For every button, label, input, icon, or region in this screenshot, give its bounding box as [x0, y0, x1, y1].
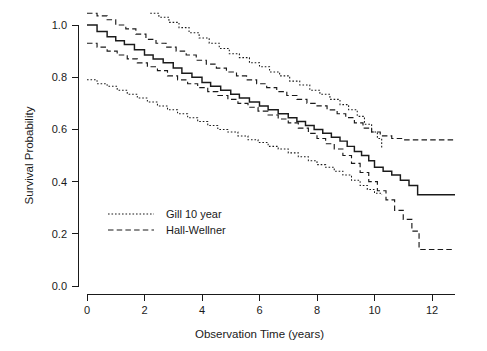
curves-layer — [87, 13, 455, 249]
survival-plot-figure: 0.00.20.40.60.81.0024681012Observation T… — [0, 0, 487, 351]
series-0-solid — [87, 25, 455, 195]
y-tick-label: 0.2 — [52, 228, 67, 240]
x-tick-label: 2 — [141, 304, 147, 316]
series-3-dotted — [150, 13, 381, 147]
legend-label: Gill 10 year — [166, 208, 222, 220]
legend-label: Hall-Wellner — [166, 224, 226, 236]
x-tick-label: 10 — [368, 304, 380, 316]
series-1-dashed — [87, 13, 455, 140]
y-tick-label: 0.6 — [52, 123, 67, 135]
x-tick-label: 6 — [256, 304, 262, 316]
series-2-dashed — [87, 43, 455, 249]
x-tick-label: 4 — [199, 304, 205, 316]
y-axis-title: Survival Probability — [23, 106, 35, 204]
axes-layer — [72, 25, 455, 301]
chart-canvas: 0.00.20.40.60.81.0024681012Observation T… — [0, 0, 487, 351]
y-tick-label: 0.0 — [52, 280, 67, 292]
x-axis-title: Observation Time (years) — [195, 328, 324, 340]
y-tick-label: 0.4 — [52, 176, 67, 188]
y-tick-label: 0.8 — [52, 71, 67, 83]
y-tick-label: 1.0 — [52, 19, 67, 31]
x-tick-label: 0 — [84, 304, 90, 316]
axis-labels-layer: 0.00.20.40.60.81.0024681012Observation T… — [23, 19, 438, 340]
x-tick-label: 12 — [426, 304, 438, 316]
chart-legend: Gill 10 yearHall-Wellner — [108, 208, 226, 236]
x-tick-label: 8 — [314, 304, 320, 316]
